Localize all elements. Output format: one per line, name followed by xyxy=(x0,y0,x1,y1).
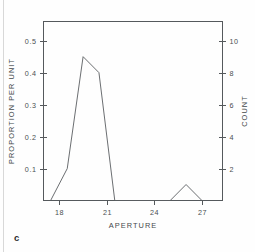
x-axis-title: APERTURE xyxy=(109,221,158,230)
x-axis-ticks: 18212427 xyxy=(55,201,207,217)
x-tick-label: 24 xyxy=(150,208,159,217)
x-tick-label: 27 xyxy=(198,208,207,217)
y-tick-label: 0.2 xyxy=(25,133,37,142)
y2-axis-ticks: 246810 xyxy=(219,37,239,174)
frequency-polygon-chart: 18212427 0.10.20.30.40.5 246810 APERTURE… xyxy=(0,0,255,252)
y-axis-title: PROPORTION PER UNIT xyxy=(7,58,16,164)
y2-tick-label: 2 xyxy=(230,165,235,174)
x-tick-label: 21 xyxy=(103,208,112,217)
y-tick-label: 0.1 xyxy=(25,165,37,174)
x-tick-label: 18 xyxy=(55,208,64,217)
figure-panel: 18212427 0.10.20.30.40.5 246810 APERTURE… xyxy=(0,0,255,252)
y2-axis-title: COUNT xyxy=(240,95,249,127)
y-tick-label: 0.3 xyxy=(25,101,37,110)
y2-tick-label: 4 xyxy=(230,133,235,142)
y2-tick-label: 6 xyxy=(230,101,235,110)
panel-label: c xyxy=(14,232,19,243)
page-edge-rule xyxy=(3,0,4,252)
y2-tick-label: 10 xyxy=(230,37,239,46)
y2-tick-label: 8 xyxy=(230,69,235,78)
y-tick-label: 0.5 xyxy=(25,37,37,46)
plot-frame xyxy=(44,22,223,201)
y-tick-label: 0.4 xyxy=(25,69,37,78)
data-series-line xyxy=(51,57,202,201)
